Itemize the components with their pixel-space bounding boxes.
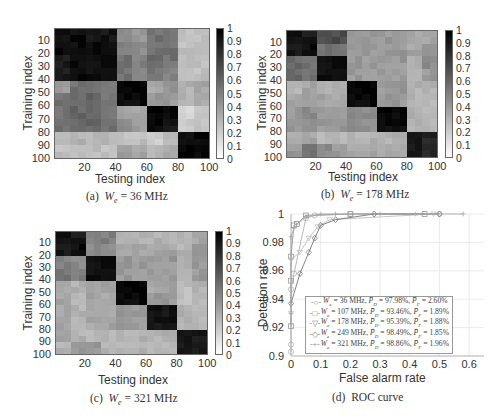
x-tick-label: 0.4 <box>398 359 422 370</box>
x-axis-label-d: False alarm rate <box>339 371 426 385</box>
x-tick-label: 0.1 <box>309 359 333 370</box>
x-tick-label: 0.3 <box>368 359 392 370</box>
y-axis-label-d: Detetion rate <box>256 248 270 338</box>
legend-label: We = 321 MHz, P̄D = 98.86%, P̄F = 1.96% <box>321 339 449 353</box>
triangle-down-icon: -▽- <box>309 319 321 330</box>
x-tick-label: 0 <box>279 359 303 370</box>
diamond-icon: -◇- <box>309 330 321 341</box>
y-tick-label: 1 <box>262 209 284 220</box>
y-tick-label: 0.98 <box>262 237 284 248</box>
caption-d: (d) ROC curve <box>332 391 403 403</box>
plus-icon: -+- <box>309 340 321 351</box>
x-tick-label: 0.6 <box>457 359 481 370</box>
legend-entry: -+-We = 321 MHz, P̄D = 98.86%, P̄F = 1.9… <box>309 340 449 351</box>
roc-legend: -○-We = 36 MHz, P̄D = 97.98%, P̄F = 2.60… <box>305 296 453 354</box>
x-tick-label: 0.2 <box>338 359 362 370</box>
square-icon: -□- <box>309 309 321 320</box>
roc-curve-line <box>291 214 439 303</box>
x-tick-label: 0.5 <box>427 359 451 370</box>
roc-plot <box>0 0 493 420</box>
